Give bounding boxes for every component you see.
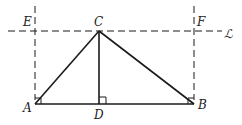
- label-c: C: [94, 15, 103, 29]
- label-d: D: [93, 108, 104, 122]
- label-b: B: [197, 98, 207, 112]
- right-angle-mark-d: [99, 97, 106, 104]
- segment-ac: [35, 31, 99, 104]
- label-e: E: [22, 15, 32, 29]
- label-l: ℒ: [224, 27, 233, 41]
- label-a: A: [22, 101, 32, 115]
- segment-bc: [99, 31, 194, 104]
- label-f: F: [196, 15, 206, 29]
- geometry-diagram: E C F ℒ A D B: [0, 0, 242, 125]
